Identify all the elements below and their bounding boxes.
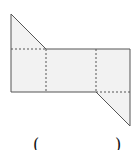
answer-open-paren: ( — [33, 137, 39, 150]
prism-net-figure — [0, 0, 138, 150]
answer-close-paren: ) — [115, 137, 121, 150]
rectangular-faces — [11, 49, 130, 92]
